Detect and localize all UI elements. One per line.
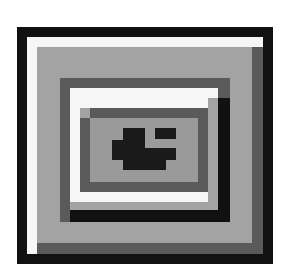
panel-corner xyxy=(80,108,90,118)
inner-step-bottom xyxy=(70,202,218,210)
glyph-pixel xyxy=(112,140,145,148)
glyph-pixel xyxy=(123,128,145,140)
icon-window-with-face xyxy=(0,0,287,278)
glyph-bar xyxy=(155,128,176,139)
inner-step xyxy=(208,98,218,202)
glyph-pixel xyxy=(112,148,176,160)
glyph-pixel xyxy=(123,160,166,170)
